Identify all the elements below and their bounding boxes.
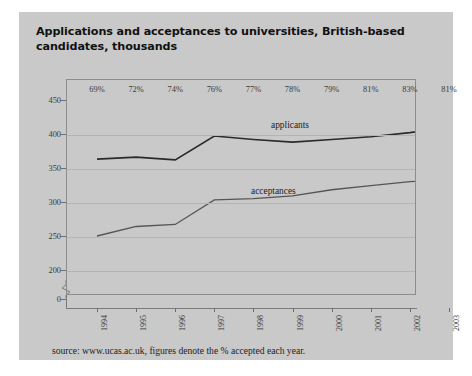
source-caption: source: www.ucas.ac.uk, figures denote t… <box>52 345 305 356</box>
series-label-applicants: applicants <box>271 120 309 130</box>
y-axis-tick-label: 450 <box>21 96 61 105</box>
x-axis-tick-label: 1995 <box>139 315 148 331</box>
x-axis-tick <box>293 308 294 312</box>
plot-area <box>66 79 416 295</box>
y-axis-tick-label: 350 <box>21 164 61 173</box>
gridline <box>67 271 415 272</box>
x-axis-tick <box>371 308 372 312</box>
pct-accepted-label: 79% <box>324 85 339 94</box>
x-axis-line <box>66 308 417 309</box>
line-applicants <box>97 127 415 160</box>
pct-accepted-label: 69% <box>89 85 104 94</box>
pct-accepted-label: 77% <box>246 85 261 94</box>
y-axis-tick-label: 250 <box>21 232 61 241</box>
pct-accepted-label: 74% <box>168 85 183 94</box>
x-axis-tick <box>449 308 450 312</box>
x-axis-tick-label: 1994 <box>100 315 109 331</box>
x-axis-tick-label: 1996 <box>178 315 187 331</box>
pct-accepted-label: 76% <box>207 85 222 94</box>
gridline <box>67 237 415 238</box>
x-axis-tick-label: 2000 <box>335 315 344 331</box>
pct-accepted-label: 81% <box>363 85 378 94</box>
pct-accepted-label: 83% <box>402 85 417 94</box>
gridline <box>67 169 415 170</box>
page-title: Applications and acceptances to universi… <box>36 24 434 54</box>
x-axis-tick <box>332 308 333 312</box>
gridline <box>67 135 415 136</box>
x-axis-tick-label: 1998 <box>256 315 265 331</box>
x-axis-tick-label: 2002 <box>413 315 422 331</box>
x-axis-tick-label: 2001 <box>374 315 383 331</box>
x-axis-tick-label: 1997 <box>217 315 226 331</box>
y-axis-tick-label: 200 <box>21 266 61 275</box>
pct-accepted-label: 78% <box>285 85 300 94</box>
x-axis-tick <box>253 308 254 312</box>
x-axis-tick <box>410 308 411 312</box>
page-canvas: Applications and acceptances to universi… <box>0 0 472 376</box>
x-axis-tick <box>175 308 176 312</box>
series-lines <box>67 80 415 294</box>
y-axis-labels: 4504003503002502000 <box>19 12 61 376</box>
pct-accepted-label: 81% <box>441 85 456 94</box>
x-axis-tick-label: 2003 <box>452 315 461 331</box>
gridline <box>67 203 415 204</box>
pct-accepted-label: 72% <box>128 85 143 94</box>
series-label-acceptances: acceptances <box>251 186 296 196</box>
y-axis-tick-label: 0 <box>21 295 61 304</box>
y-axis-tick-label: 400 <box>21 130 61 139</box>
x-axis-tick <box>136 308 137 312</box>
x-axis-tick <box>214 308 215 312</box>
x-axis-tick-label: 1999 <box>296 315 305 331</box>
y-axis-tick-label: 300 <box>21 198 61 207</box>
chart-card: Applications and acceptances to universi… <box>19 12 453 360</box>
x-axis-tick <box>97 308 98 312</box>
